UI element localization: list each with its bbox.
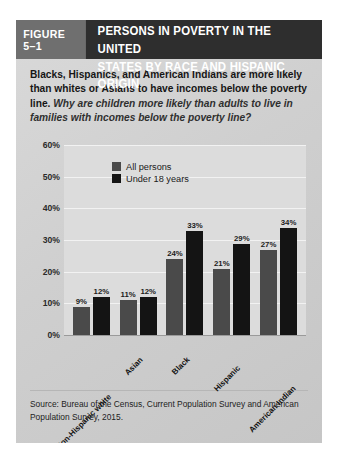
bar-value: 34% bbox=[281, 218, 297, 227]
figure-number-tag: FIGURE 5–1 bbox=[16, 20, 86, 59]
bar-value: 21% bbox=[214, 259, 230, 268]
y-tick-label-0: 0% bbox=[48, 330, 60, 340]
legend-label-all-persons: All persons bbox=[126, 162, 171, 172]
figure-title: PERSONS IN POVERTY IN THE UNITED STATES … bbox=[92, 20, 306, 59]
legend-label-under-18: Under 18 years bbox=[126, 174, 189, 184]
bar-american-indian-under-18: 34% bbox=[280, 228, 297, 335]
bar-hispanic-under-18: 29% bbox=[233, 244, 250, 335]
legend-swatch-all-persons bbox=[112, 162, 121, 171]
bar-value: 11% bbox=[121, 290, 136, 299]
x-axis-line bbox=[64, 335, 306, 336]
bar-value: 9% bbox=[76, 297, 87, 306]
bar-black-all-persons: 24% bbox=[166, 259, 183, 335]
y-tick-label-20: 20% bbox=[43, 267, 60, 277]
bar-black-under-18: 33% bbox=[186, 231, 203, 335]
x-tick-label-black: Black bbox=[185, 340, 206, 361]
figure-title-line2: STATES BY RACE AND HISPANIC ORIGIN bbox=[98, 59, 301, 95]
bar-value: 33% bbox=[187, 221, 203, 230]
y-tick-label-50: 50% bbox=[43, 172, 60, 182]
y-tick-label-60: 60% bbox=[43, 140, 60, 150]
y-tick-label-10: 10% bbox=[43, 298, 60, 308]
bar-value: 29% bbox=[234, 234, 250, 243]
bar-group-non-hispanic-white: 9% 12% bbox=[73, 146, 110, 335]
bar-value: 12% bbox=[140, 287, 156, 296]
bar-non-hispanic-white-under-18: 12% bbox=[93, 297, 110, 335]
bar-value: 12% bbox=[94, 287, 110, 296]
plot-area: 60% 50% 40% 30% 20% 10% 0% All persons U… bbox=[64, 146, 306, 336]
bar-non-hispanic-white-all-persons: 9% bbox=[73, 307, 90, 335]
bar-group-american-indian: 27% 34% bbox=[260, 146, 297, 335]
legend-item-all-persons: All persons bbox=[112, 162, 189, 172]
caption-question: Why are children more likely than adults… bbox=[30, 98, 293, 123]
bar-chart: 60% 50% 40% 30% 20% 10% 0% All persons U… bbox=[26, 138, 312, 386]
bar-asian-under-18: 12% bbox=[140, 297, 157, 335]
bar-value: 27% bbox=[261, 240, 277, 249]
bar-group-hispanic: 21% 29% bbox=[213, 146, 250, 335]
y-tick-label-30: 30% bbox=[43, 235, 60, 245]
legend-item-under-18: Under 18 years bbox=[112, 174, 189, 184]
chart-legend: All persons Under 18 years bbox=[112, 162, 189, 186]
y-tick-label-40: 40% bbox=[43, 203, 60, 213]
figure-card: FIGURE 5–1 PERSONS IN POVERTY IN THE UNI… bbox=[16, 20, 322, 443]
bar-value: 24% bbox=[167, 249, 183, 258]
figure-header: FIGURE 5–1 PERSONS IN POVERTY IN THE UNI… bbox=[16, 20, 322, 59]
legend-swatch-under-18 bbox=[112, 174, 121, 183]
figure-title-line1: PERSONS IN POVERTY IN THE UNITED bbox=[98, 24, 271, 56]
bar-asian-all-persons: 11% bbox=[120, 300, 137, 335]
bar-hispanic-all-persons: 21% bbox=[213, 269, 230, 335]
x-tick-label-american-indian: American Indian bbox=[291, 340, 322, 390]
x-axis-labels: Non-Hispanic white Asian Black Hispanic … bbox=[64, 338, 306, 386]
bar-american-indian-all-persons: 27% bbox=[260, 250, 277, 335]
